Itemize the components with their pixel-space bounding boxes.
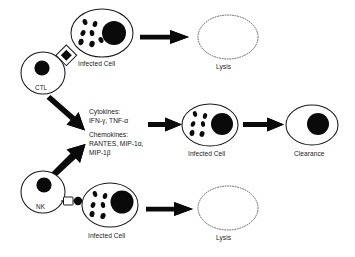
infected-cell-top-nucleus [102,21,126,45]
cytokines-heading: Cytokines: [89,107,143,116]
outcome-clearance-group [286,105,338,145]
chemokines-items-line1: RANTES, MIP-1α, [89,139,143,148]
infected-cell-top-label: Infected Cell [78,60,115,69]
infected-cell-bottom-nucleus [111,191,134,214]
nk-receptor-bridge [61,197,82,205]
nk-cell-group [21,171,82,213]
nk-nucleus [36,177,51,192]
outcome-lysis-top-label: Lysis [216,63,231,72]
cytokines-items: IFN-γ, TNF-α [89,116,143,125]
chemokines-group: Chemokines: RANTES, MIP-1α, MIP-1β [89,130,143,157]
immune-response-diagram [0,0,355,257]
infected-cell-bottom-label: Infected Cell [88,232,125,241]
ctl-cell-group [21,45,77,94]
outcome-lysis-bottom-label: Lysis [216,234,231,243]
cytokines-group: Cytokines: IFN-γ, TNF-α [89,107,143,125]
infected-cell-middle-nucleus [211,113,233,135]
arrow-mediators-infected [148,118,182,132]
chemokines-items-line2: MIP-1β [89,148,143,157]
soluble-mediators-list: Cytokines: IFN-γ, TNF-α Chemokines: RANT… [89,107,143,157]
ctl-nucleus [34,60,49,75]
infected-cell-bottom-group [82,183,138,227]
nk-label: NK [36,203,45,212]
nk-receptor-knob [74,197,82,205]
arrow-bottom-lysis [146,202,193,216]
outcome-lysis-bottom-membrane [198,186,258,230]
arrow-infected-clearance [243,118,284,132]
arrow-ctl-mediators [47,95,86,131]
infected-cell-middle-group [182,104,238,146]
infected-cell-top-group [71,9,133,57]
outcome-lysis-top-membrane [198,15,258,59]
ctl-label: CTL [35,84,47,93]
arrow-top-lysis [140,30,189,44]
outcome-clearance-label: Clearance [294,150,325,159]
outcome-clearance-nucleus [307,113,329,135]
figure-canvas: CTL NK Infected Cell Infected Cell Infec… [0,0,355,257]
chemokines-heading: Chemokines: [89,130,143,139]
infected-cell-middle-label: Infected Cell [188,150,225,159]
nk-receptor-box [64,197,74,205]
